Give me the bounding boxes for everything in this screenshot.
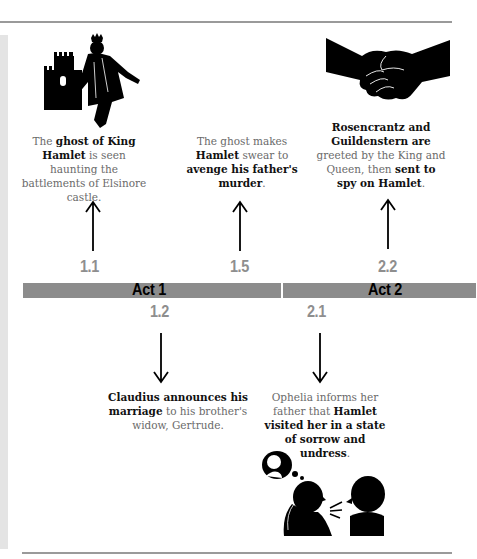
scene-1-5-caption: The ghost makes Hamlet swear to avenge h… bbox=[186, 134, 298, 190]
scene-2-2-caption: Rosencrantz and Guildenstern are greeted… bbox=[316, 120, 446, 190]
scene-number-2-1: 2.1 bbox=[307, 302, 326, 322]
side-strip bbox=[0, 35, 8, 549]
bottom-rule bbox=[22, 552, 452, 554]
scene-2-1-caption: Ophelia informs her father that Hamlet v… bbox=[258, 390, 392, 460]
act-2-label: Act 2 bbox=[368, 280, 402, 300]
top-rule bbox=[0, 21, 452, 23]
arrow-up-2-2 bbox=[378, 198, 398, 250]
scene-number-1-5: 1.5 bbox=[230, 257, 249, 277]
scene-1-1-caption: The ghost of King Hamlet is seen hauntin… bbox=[18, 134, 150, 204]
scene-1-2-caption: Claudius announces his marriage to his b… bbox=[108, 390, 248, 432]
arrow-down-1-2 bbox=[151, 332, 171, 384]
conversation-thought-icon bbox=[262, 450, 392, 542]
ghost-king-castle-icon bbox=[42, 32, 148, 132]
scene-number-2-2: 2.2 bbox=[378, 257, 397, 277]
scene-number-1-1: 1.1 bbox=[80, 257, 99, 277]
arrow-up-1-1 bbox=[83, 200, 103, 252]
handshake-icon bbox=[326, 36, 450, 102]
act-1-label: Act 1 bbox=[132, 280, 166, 300]
arrow-down-2-1 bbox=[310, 332, 330, 384]
arrow-up-1-5 bbox=[230, 200, 250, 252]
scene-number-1-2: 1.2 bbox=[150, 302, 169, 322]
